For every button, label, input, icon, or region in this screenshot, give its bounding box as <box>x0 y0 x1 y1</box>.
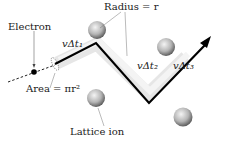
segment-3-label: vΔt₃ <box>173 61 194 71</box>
incoming-dashed-path <box>8 65 55 82</box>
lattice-ion-3 <box>87 89 105 107</box>
radius-leader-2 <box>125 12 127 56</box>
electron-label: Electron <box>8 22 51 32</box>
segment-2-label: vΔt₂ <box>137 61 158 71</box>
electron-dot <box>31 69 37 75</box>
lattice-ion-2 <box>157 38 175 56</box>
lattice-ion-4 <box>174 108 193 127</box>
ion-leader <box>98 108 104 126</box>
segment-1-label: vΔt₁ <box>62 39 83 49</box>
lattice-ion-label: Lattice ion <box>70 127 124 137</box>
lattice-ion-1 <box>88 21 106 39</box>
radius-leader-1 <box>100 12 121 28</box>
arrow-head-icon <box>200 36 211 48</box>
area-label: Area = πr² <box>26 84 80 94</box>
radius-label: Radius = r <box>104 2 158 12</box>
